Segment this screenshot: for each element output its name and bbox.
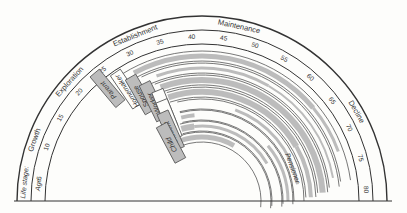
role-shade <box>180 137 234 146</box>
role-band-outline <box>180 121 282 207</box>
role-bands <box>123 51 351 208</box>
row-label-age: Age: <box>34 176 44 192</box>
age-tick-label: 65 <box>328 95 338 105</box>
life-stage-label: Growth <box>26 127 43 153</box>
life-career-rainbow: 5101520253035404550556065707580GrowthExp… <box>0 0 407 213</box>
age-tick-label: 10 <box>42 142 51 151</box>
row-label-life-stage: Life stage: <box>19 166 30 199</box>
age-tick-label: 80 <box>363 186 371 194</box>
age-tick-label: 75 <box>357 153 366 162</box>
role-band-inner <box>182 142 261 207</box>
age-tick-label: 20 <box>74 86 84 96</box>
age-tick-label: 45 <box>220 34 228 42</box>
age-tick-label: 55 <box>280 53 290 63</box>
age-tick-label: 15 <box>55 112 65 122</box>
age-tick-label: 30 <box>125 48 135 58</box>
age-tick-label: 70 <box>345 123 355 133</box>
age-tick-label: 60 <box>306 72 316 82</box>
age-tick-label: 35 <box>156 37 165 46</box>
role-shade <box>181 126 194 128</box>
age-tick-label: 40 <box>188 33 196 40</box>
age-tick-label: 50 <box>251 41 260 50</box>
role-shade <box>181 115 194 117</box>
